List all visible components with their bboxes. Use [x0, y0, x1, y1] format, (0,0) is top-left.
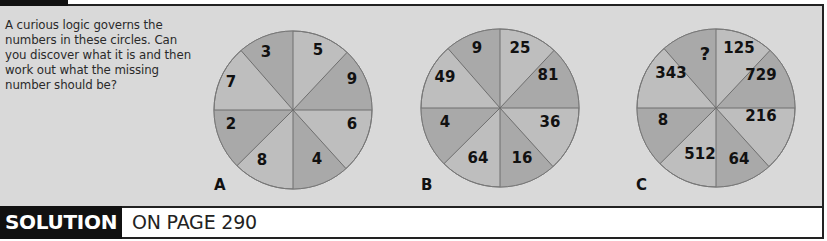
sector-value: 81	[538, 66, 559, 84]
circle-diagrams: 3 5 9 6 4 8 2 7 A 9 25 81 36 16 64 4 49 …	[0, 0, 827, 241]
sector-value: 512	[684, 145, 715, 163]
sector-value: 4	[440, 113, 450, 131]
circle-label-c: C	[636, 176, 647, 194]
sector-value: 7	[226, 73, 236, 91]
sector-value: 125	[723, 39, 754, 57]
sector-value: 64	[729, 150, 750, 168]
sector-value: 4	[312, 150, 322, 168]
solution-bar: SOLUTION ON PAGE 290	[0, 206, 827, 239]
solution-page-reference: ON PAGE 290	[122, 206, 824, 239]
circle-c: ? 125 729 216 64 512 8 343	[637, 29, 795, 187]
sector-value: 8	[257, 151, 267, 169]
circle-label-a: A	[214, 176, 226, 194]
sector-value: 6	[347, 115, 357, 133]
sector-value: 16	[512, 149, 533, 167]
sector-value: 216	[745, 107, 776, 125]
sector-value: 36	[540, 113, 561, 131]
sector-value: 9	[347, 70, 357, 88]
sector-value: 9	[472, 39, 482, 57]
sector-value: 2	[226, 115, 236, 133]
solution-label: SOLUTION	[0, 206, 122, 239]
sector-value: 49	[435, 68, 456, 86]
circle-b: 9 25 81 36 16 64 4 49	[421, 29, 579, 187]
circle-a: 3 5 9 6 4 8 2 7	[214, 31, 372, 189]
sector-value: 8	[658, 111, 668, 129]
sector-value: 64	[468, 149, 489, 167]
sector-value: 3	[261, 43, 271, 61]
sector-value: 343	[655, 64, 686, 82]
sector-value: 5	[313, 41, 323, 59]
sector-value: 25	[510, 39, 531, 57]
missing-value-question-mark: ?	[700, 43, 710, 64]
circle-label-b: B	[421, 176, 432, 194]
sector-value: 729	[745, 66, 776, 84]
